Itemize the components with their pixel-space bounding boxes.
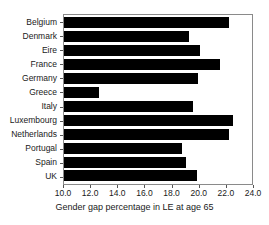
bar-denmark <box>64 31 189 42</box>
x-axis-tick-label: 14.0 <box>109 188 126 199</box>
y-axis-category-labels: Belgium Denmark Eire France Germany Gree… <box>0 14 60 185</box>
y-axis-label-luxembourg: Luxembourg <box>0 115 60 126</box>
bar-row <box>64 157 252 168</box>
x-axis-tick-label: 20.0 <box>190 188 207 199</box>
bar-row <box>64 101 252 112</box>
bar-row <box>64 45 252 56</box>
y-axis-label-greece: Greece <box>0 87 60 98</box>
bar-uk <box>64 170 197 181</box>
bar-italy <box>64 101 193 112</box>
bar-row <box>64 143 252 154</box>
bar-row <box>64 17 252 28</box>
y-axis-label-germany: Germany <box>0 73 60 84</box>
x-axis-tick-label: 22.0 <box>218 188 235 199</box>
x-axis-tick-label: 12.0 <box>82 188 99 199</box>
bar-row <box>64 87 252 98</box>
bar-luxembourg <box>64 115 233 126</box>
bar-germany <box>64 73 198 84</box>
y-axis-label-italy: Italy <box>0 101 60 112</box>
y-axis-label-eire: Eire <box>0 45 60 56</box>
bar-eire <box>64 45 200 56</box>
x-axis-tick-label: 10.0 <box>55 188 72 199</box>
y-axis-label-france: France <box>0 59 60 70</box>
bar-portugal <box>64 143 182 154</box>
bar-greece <box>64 87 99 98</box>
plot-frame <box>63 14 253 185</box>
y-axis-label-belgium: Belgium <box>0 17 60 28</box>
bar-row <box>64 59 252 70</box>
y-axis-label-spain: Spain <box>0 157 60 168</box>
bar-netherlands <box>64 129 229 140</box>
x-axis-tick-label: 24.0 <box>245 188 262 199</box>
y-axis-label-portugal: Portugal <box>0 143 60 154</box>
bar-row <box>64 129 252 140</box>
y-axis-label-netherlands: Netherlands <box>0 129 60 140</box>
x-axis-tick-labels: 10.012.014.016.018.020.022.024.0 <box>63 188 253 200</box>
y-axis-label-denmark: Denmark <box>0 31 60 42</box>
bar-row <box>64 73 252 84</box>
bar-belgium <box>64 17 229 28</box>
bar-row <box>64 31 252 42</box>
bar-row <box>64 115 252 126</box>
bar-france <box>64 59 220 70</box>
x-axis-tick-label: 18.0 <box>163 188 180 199</box>
bar-row <box>64 170 252 181</box>
x-axis-title: Gender gap percentage in LE at age 65 <box>0 201 269 213</box>
bars-area <box>64 15 252 184</box>
bar-spain <box>64 157 186 168</box>
bar-chart-figure: Belgium Denmark Eire France Germany Gree… <box>0 0 269 225</box>
x-axis-tick-label: 16.0 <box>136 188 153 199</box>
y-axis-label-uk: UK <box>0 171 60 182</box>
